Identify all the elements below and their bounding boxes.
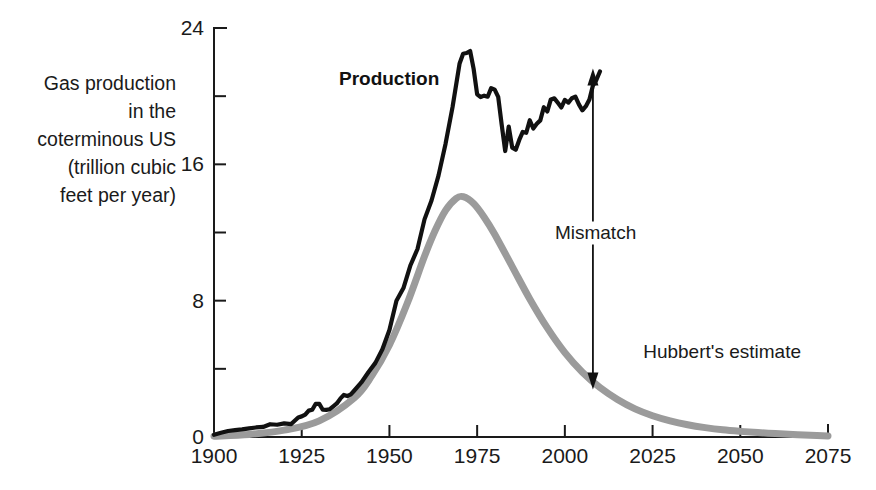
x-tick-label-1900: 1900 <box>191 444 238 467</box>
production-series-label: Production <box>339 68 439 89</box>
gas-production-chart: Gas production in the coterminous US (tr… <box>0 0 876 490</box>
mismatch-annotation: Mismatch <box>551 69 651 390</box>
x-tick-label-1950: 1950 <box>366 444 413 467</box>
hubbert-estimate-curve <box>214 196 828 436</box>
y-axis-minor-ticks <box>214 96 226 369</box>
y-tick-label-16: 16 <box>181 152 204 175</box>
x-tick-label-2075: 2075 <box>805 444 852 467</box>
x-tick-label-2050: 2050 <box>717 444 764 467</box>
y-axis-title: Gas production in the coterminous US (tr… <box>37 72 176 206</box>
x-axis-tick-labels: 19001925195019752000202520502075 <box>191 444 852 467</box>
y-axis-title-line-5: feet per year) <box>60 184 176 206</box>
y-tick-label-8: 8 <box>192 289 204 312</box>
y-axis-tick-labels: 081624 <box>181 16 205 448</box>
y-axis-title-line-2: in the <box>128 100 176 122</box>
y-tick-label-24: 24 <box>181 16 205 39</box>
production-curve <box>214 51 600 435</box>
chart-figure: Gas production in the coterminous US (tr… <box>0 0 876 490</box>
hubbert-series-label: Hubbert's estimate <box>643 341 801 362</box>
y-axis-title-line-3: coterminous US <box>37 128 176 150</box>
x-tick-label-1925: 1925 <box>278 444 325 467</box>
mismatch-label: Mismatch <box>555 222 636 243</box>
x-tick-label-2025: 2025 <box>629 444 676 467</box>
y-axis-title-line-1: Gas production <box>44 72 176 94</box>
x-tick-label-1975: 1975 <box>454 444 501 467</box>
y-axis-title-line-4: (trillion cubic <box>68 156 177 178</box>
x-tick-label-2000: 2000 <box>541 444 588 467</box>
